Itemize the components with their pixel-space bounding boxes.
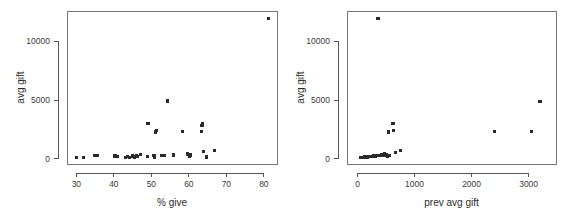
x-tick-label: 60 [184,179,194,189]
y-axis-title: avg gift [15,71,26,103]
x-tick-label: 30 [72,179,82,189]
x-axis-title: % give [157,197,187,208]
data-point [394,151,397,154]
y-tick-label: 5000 [31,95,50,105]
data-point [181,130,184,133]
data-point [172,153,175,156]
data-point [93,154,96,157]
data-point [139,153,142,156]
data-point [213,149,216,152]
data-point [202,150,205,153]
data-point [387,130,390,133]
data-point [136,155,139,158]
data-point [160,154,163,157]
plot-area-right: 01000200030000500010000prev avg giftavg … [285,0,571,216]
x-tick-label: 40 [109,179,119,189]
y-tick-label: 0 [45,154,50,164]
scatter-plot-figure: 3040506070800500010000% giveavg gift 010… [0,0,571,216]
data-point [493,130,496,133]
x-tick-label: 1000 [405,179,424,189]
y-tick-label: 5000 [311,95,330,105]
data-point [267,17,270,20]
data-point [392,129,395,132]
y-tick-label: 10000 [306,36,330,46]
data-point [530,130,533,133]
y-axis-title: avg gift [295,71,306,103]
data-point [189,153,192,156]
panel-percent-give: 3040506070800500010000% giveavg gift [0,0,290,216]
x-tick-label: 0 [355,179,360,189]
x-tick-label: 80 [259,179,269,189]
data-point [399,149,402,152]
data-point [391,122,394,125]
data-point [163,154,166,157]
data-point [82,156,85,159]
data-point [538,100,541,103]
data-point [153,156,156,159]
data-point [146,155,149,158]
data-point [116,155,119,158]
data-point [201,122,204,125]
data-point [166,99,169,102]
x-axis-title: prev avg gift [424,197,479,208]
x-tick-label: 2000 [462,179,481,189]
x-tick-label: 3000 [519,179,538,189]
data-point [75,156,78,159]
y-tick-label: 10000 [26,36,50,46]
x-tick-label: 50 [147,179,157,189]
plot-frame [67,11,277,164]
data-point [205,155,208,158]
data-point [200,130,203,133]
data-point [388,154,391,157]
plot-area-left: 3040506070800500010000% giveavg gift [0,0,290,216]
data-point [96,154,99,157]
plot-frame [347,11,556,164]
data-point [146,122,149,125]
panel-prev-avg-gift: 01000200030000500010000prev avg giftavg … [285,0,571,216]
x-tick-label: 70 [222,179,232,189]
data-point [376,17,379,20]
y-tick-label: 0 [325,154,330,164]
data-point [155,129,158,132]
